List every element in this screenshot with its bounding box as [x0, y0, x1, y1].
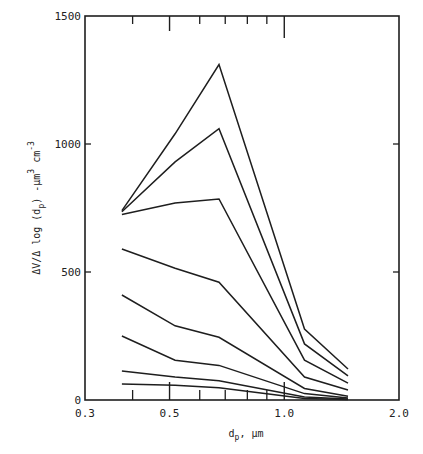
y-axis-label: ΔV/Δ log (dp) -μm3 cm-3	[27, 141, 46, 275]
series-line-curve-4	[122, 249, 348, 390]
y-tick-label: 500	[61, 266, 81, 279]
series-line-curve-3	[122, 199, 348, 383]
plot-border	[85, 16, 399, 400]
series-line-curve-5	[122, 295, 348, 396]
chart-svg: 0.30.51.02.0 050010001500 dp, μm ΔV/Δ lo…	[0, 0, 423, 454]
x-axis-label-unit: , μm	[239, 428, 263, 439]
x-tick-label: 0.5	[160, 407, 180, 420]
y-tick-label: 1500	[55, 10, 82, 23]
y-axis-label-mid: ) -μm	[31, 174, 42, 204]
x-tick-label: 0.3	[75, 407, 95, 420]
y-tick-label: 0	[74, 394, 81, 407]
plot-frame	[85, 16, 399, 400]
x-tick-label: 2.0	[389, 407, 409, 420]
series-line-curve-1	[122, 65, 348, 369]
y-axis-label-sup2: -3	[27, 141, 36, 151]
y-axis-label-unit: cm	[31, 151, 42, 169]
data-series	[122, 65, 348, 400]
y-tick-label: 1000	[55, 138, 82, 151]
x-tick-label: 1.0	[274, 407, 294, 420]
x-axis-ticks: 0.30.51.02.0	[75, 16, 409, 420]
y-axis-ticks: 050010001500	[55, 10, 400, 407]
x-axis-label: dp, μm	[229, 428, 264, 442]
chart: 0.30.51.02.0 050010001500 dp, μm ΔV/Δ lo…	[0, 0, 423, 454]
series-line-curve-6	[122, 336, 348, 398]
y-axis-label-pre: ΔV/Δ log (d	[31, 209, 42, 275]
